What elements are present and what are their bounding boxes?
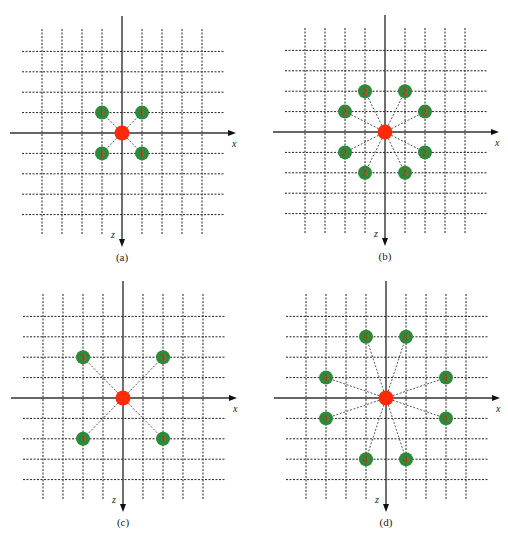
neighbor-node: 2 (418, 105, 432, 119)
z-axis-arrow-icon (119, 239, 125, 247)
x-axis-arrow-icon (228, 130, 236, 136)
neighbor-node-label: 3 (161, 352, 166, 363)
neighbor-node-label: 1 (140, 148, 145, 159)
panel-c: xz3333(c) (11, 281, 238, 529)
connection-line (386, 398, 406, 459)
panel-caption: (a) (116, 251, 129, 264)
x-axis-label: x (231, 138, 237, 149)
neighbor-node: 1 (135, 146, 149, 160)
x-axis-arrow-icon (492, 395, 500, 401)
connection-line (326, 378, 386, 398)
neighbor-node-label: 1 (140, 107, 145, 118)
neighbor-node-label: 4 (364, 454, 369, 465)
connection-line (366, 398, 386, 459)
neighbor-node-label: 2 (343, 147, 348, 158)
neighbor-node-label: 2 (343, 106, 348, 117)
z-axis-arrow-icon (382, 238, 388, 246)
neighbor-node: 2 (418, 145, 432, 159)
z-axis-label: z (374, 494, 379, 505)
panel-caption: (c) (117, 516, 130, 529)
neighbor-node: 4 (399, 330, 413, 344)
connection-line (386, 398, 446, 418)
neighbor-node: 2 (358, 166, 372, 180)
neighbor-node-label: 3 (161, 433, 166, 444)
neighbor-node-label: 4 (364, 331, 369, 342)
connection-line (366, 337, 386, 398)
neighbor-node-label: 2 (363, 167, 368, 178)
neighbor-node-label: 2 (423, 106, 428, 117)
z-axis-label: z (373, 228, 378, 239)
neighbor-node: 1 (135, 106, 149, 120)
neighbor-node: 1 (95, 146, 109, 160)
neighbor-node-label: 4 (404, 331, 409, 342)
neighbor-node-label: 4 (404, 454, 409, 465)
panel-caption: (b) (379, 250, 392, 263)
neighbor-node: 4 (399, 452, 413, 466)
z-axis-label: z (110, 229, 115, 240)
neighbor-node-label: 1 (100, 107, 105, 118)
stencil-figure: xz1111(a)xz22222222(b)xz3333(c)xz4444444… (0, 0, 508, 542)
neighbor-node: 4 (319, 411, 333, 425)
connection-line (386, 337, 406, 398)
neighbor-node: 2 (338, 105, 352, 119)
center-node (379, 391, 394, 406)
neighbor-node-label: 3 (81, 352, 86, 363)
neighbor-node-label: 2 (403, 86, 408, 97)
z-axis-arrow-icon (383, 504, 389, 512)
center-node (115, 126, 130, 141)
neighbor-node: 2 (398, 166, 412, 180)
x-axis-arrow-icon (229, 395, 237, 401)
neighbor-node-label: 4 (444, 413, 449, 424)
panel-a: xz1111(a) (10, 16, 237, 264)
panel-b: xz22222222(b) (273, 15, 500, 263)
neighbor-node: 3 (156, 432, 170, 446)
x-axis-label: x (495, 403, 501, 414)
neighbor-node: 4 (439, 411, 453, 425)
z-axis-label: z (111, 494, 116, 505)
x-axis-label: x (232, 403, 238, 414)
neighbor-node: 3 (76, 350, 90, 364)
neighbor-node: 4 (359, 330, 373, 344)
neighbor-node: 3 (156, 350, 170, 364)
connection-line (326, 398, 386, 418)
connection-line (386, 378, 446, 398)
neighbor-node-label: 4 (324, 413, 329, 424)
center-node (378, 125, 393, 140)
panel-caption: (d) (380, 516, 393, 529)
neighbor-node: 3 (76, 432, 90, 446)
neighbor-node: 4 (359, 452, 373, 466)
center-node (116, 391, 131, 406)
neighbor-node: 4 (439, 371, 453, 385)
neighbor-node-label: 4 (324, 372, 329, 383)
neighbor-node-label: 1 (100, 148, 105, 159)
neighbor-node-label: 3 (81, 433, 86, 444)
connection-line (83, 357, 123, 398)
x-axis-arrow-icon (491, 129, 499, 135)
z-axis-arrow-icon (120, 504, 126, 512)
neighbor-node: 2 (398, 84, 412, 98)
neighbor-node: 1 (95, 106, 109, 120)
neighbor-node: 2 (338, 145, 352, 159)
neighbor-node-label: 2 (363, 86, 368, 97)
neighbor-node-label: 2 (423, 147, 428, 158)
neighbor-node: 4 (319, 371, 333, 385)
neighbor-node: 2 (358, 84, 372, 98)
neighbor-node-label: 4 (444, 372, 449, 383)
neighbor-node-label: 2 (403, 167, 408, 178)
panel-d: xz44444444(d) (274, 281, 501, 529)
x-axis-label: x (494, 137, 500, 148)
